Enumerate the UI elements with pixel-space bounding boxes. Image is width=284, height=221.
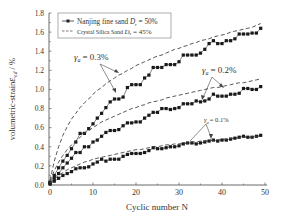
data-marker	[117, 128, 120, 131]
data-marker	[66, 154, 69, 157]
data-marker	[203, 99, 206, 102]
data-marker	[61, 174, 64, 177]
data-marker	[117, 97, 120, 100]
data-marker	[169, 108, 172, 111]
data-marker	[122, 124, 125, 127]
data-marker	[100, 112, 103, 115]
data-marker	[212, 39, 215, 42]
data-marker	[152, 111, 155, 114]
data-marker	[104, 106, 107, 109]
data-marker	[70, 147, 73, 150]
y-tick-label: 0.6	[35, 123, 45, 132]
data-marker	[233, 93, 236, 96]
data-marker	[169, 63, 172, 66]
data-marker	[220, 42, 223, 45]
x-tick-label: 50	[261, 188, 269, 197]
data-marker	[182, 102, 185, 105]
data-marker	[238, 32, 241, 35]
data-marker	[57, 177, 60, 180]
data-marker	[66, 172, 69, 175]
data-marker	[216, 95, 219, 98]
legend: Nanjing fine sand Dr = 50% Crystal Silic…	[58, 13, 171, 38]
data-marker	[61, 160, 64, 163]
data-marker	[208, 97, 211, 100]
data-marker	[229, 93, 232, 96]
data-marker	[139, 120, 142, 123]
y-tick-label: 1.6	[35, 28, 45, 37]
data-marker	[195, 99, 198, 102]
data-marker	[66, 161, 69, 164]
data-marker	[83, 145, 86, 148]
svg-text:Nanjing fine sand Dr = 50%: Nanjing fine sand Dr = 50%	[77, 18, 158, 27]
data-marker	[70, 170, 73, 173]
data-marker	[169, 145, 172, 148]
x-tick-label: 20	[132, 188, 140, 197]
data-marker	[246, 87, 249, 90]
data-marker	[225, 95, 228, 98]
svg-text:volumetric-strainεv,d / %: volumetric-strainεv,d / %	[6, 58, 18, 140]
data-marker	[130, 152, 133, 155]
data-marker	[156, 111, 159, 114]
data-marker	[195, 142, 198, 145]
data-marker	[91, 122, 94, 125]
data-marker	[87, 165, 90, 168]
data-marker	[109, 100, 112, 103]
data-marker	[220, 95, 223, 98]
data-marker	[177, 60, 180, 63]
data-marker	[143, 151, 146, 154]
data-marker	[147, 149, 150, 152]
data-marker	[96, 160, 99, 163]
y-tick-label: 0.4	[35, 143, 45, 152]
data-marker	[242, 87, 245, 90]
data-marker	[91, 162, 94, 165]
y-tick-label: 0.2	[35, 162, 45, 171]
data-marker	[96, 117, 99, 120]
data-marker	[160, 107, 163, 110]
data-marker	[104, 160, 107, 163]
data-marker	[122, 95, 125, 98]
data-marker	[199, 52, 202, 55]
data-marker	[165, 146, 168, 149]
data-marker	[109, 129, 112, 132]
data-marker	[199, 100, 202, 103]
data-marker	[100, 135, 103, 138]
data-marker	[190, 102, 193, 105]
data-marker	[208, 42, 211, 45]
annotation-gamma-0.3: γa= 0.3%	[74, 52, 119, 93]
data-marker	[61, 166, 64, 169]
data-marker	[126, 86, 129, 89]
data-marker	[130, 83, 133, 86]
data-marker	[182, 142, 185, 145]
data-marker	[251, 31, 254, 34]
svg-text:γa= 0.2%: γa= 0.2%	[202, 65, 237, 76]
data-marker	[87, 145, 90, 148]
marker-line	[50, 135, 261, 184]
data-marker	[212, 93, 215, 96]
data-marker	[203, 48, 206, 51]
data-marker	[139, 152, 142, 155]
x-tick-label: 30	[175, 188, 183, 197]
data-marker	[109, 158, 112, 161]
x-tick-label: 40	[218, 188, 226, 197]
data-marker	[156, 147, 159, 150]
data-marker	[186, 53, 189, 56]
data-marker	[134, 120, 137, 123]
data-marker	[79, 132, 82, 135]
data-marker	[83, 166, 86, 169]
annotation-gamma-0.1: γa= 0.1%	[190, 116, 229, 141]
data-marker	[74, 151, 77, 154]
data-marker	[134, 83, 137, 86]
y-tick-label: 0.0	[35, 181, 45, 190]
data-marker	[130, 121, 133, 124]
legend-entry-nanjing: Nanjing fine sand Dr = 50%	[62, 18, 158, 27]
data-marker	[216, 42, 219, 45]
data-marker	[113, 129, 116, 132]
data-marker	[199, 141, 202, 144]
data-marker	[91, 140, 94, 143]
data-marker	[126, 121, 129, 124]
data-marker	[160, 147, 163, 150]
data-marker	[53, 180, 56, 183]
data-marker	[122, 155, 125, 158]
data-marker	[259, 27, 262, 30]
data-marker	[165, 63, 168, 66]
